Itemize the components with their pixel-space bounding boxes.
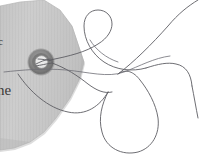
thread-through-hole-b	[36, 63, 52, 66]
thread-layer	[0, 0, 200, 166]
thread-teardrop-loop	[100, 71, 158, 153]
thread-lower-sweep	[52, 63, 112, 93]
thread-right-tail	[192, 86, 198, 118]
torn-paper-scene: c ne	[0, 0, 200, 166]
thread-diagonal-upper-right	[118, 0, 198, 74]
thread-left-dip-loop	[18, 74, 108, 113]
thread-top-loop	[50, 10, 146, 70]
thread-middle-sweep	[4, 56, 170, 75]
thread-right-arch	[146, 63, 192, 86]
thread-inner-strand	[90, 40, 118, 62]
